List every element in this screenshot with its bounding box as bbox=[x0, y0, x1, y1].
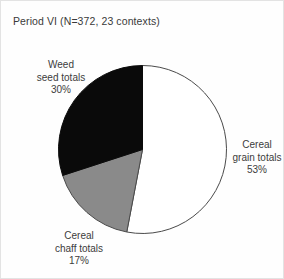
pie-label-cereal-chaff-totals: Cereal chaff totals 17% bbox=[33, 230, 125, 268]
pie-label-weed-seed-totals: Weed seed totals 30% bbox=[17, 59, 105, 97]
pie-label-weed-percent: 30% bbox=[17, 84, 105, 97]
pie-label-weed-line2: seed totals bbox=[37, 72, 85, 83]
pie-label-cereal-grain-percent: 53% bbox=[229, 164, 284, 177]
pie-label-cereal-grain-line1: Cereal bbox=[242, 139, 271, 150]
pie-label-cereal-chaff-line2: chaff totals bbox=[55, 243, 103, 254]
pie-label-cereal-grain-line2: grain totals bbox=[233, 152, 282, 163]
chart-page: Period VI (N=372, 23 contexts) Weed seed… bbox=[0, 0, 284, 279]
pie-label-cereal-chaff-percent: 17% bbox=[33, 255, 125, 268]
pie-label-cereal-chaff-line1: Cereal bbox=[64, 230, 93, 241]
pie-label-cereal-grain-totals: Cereal grain totals 53% bbox=[229, 139, 284, 177]
pie-label-weed-line1: Weed bbox=[48, 59, 74, 70]
